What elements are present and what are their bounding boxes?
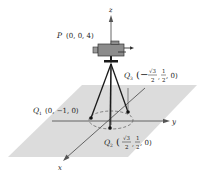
svg-text:(0, 0, 4): (0, 0, 4): [66, 32, 94, 40]
x-axis-label: x: [58, 164, 62, 172]
svg-text:(−: (−: [136, 69, 148, 80]
svg-text:3: 3: [130, 76, 133, 81]
svg-text:(0, −1, 0): (0, −1, 0): [45, 107, 79, 115]
svg-text:, 0): , 0): [140, 139, 152, 147]
point-q3: [126, 110, 130, 114]
point-q2: [108, 126, 112, 130]
svg-text:1: 1: [162, 68, 166, 74]
svg-text:,: ,: [132, 140, 134, 147]
svg-text:2: 2: [162, 77, 166, 83]
svg-text:1: 1: [39, 111, 42, 116]
svg-text:2: 2: [110, 143, 113, 148]
label-q1: Q 1 (0, −1, 0): [33, 106, 79, 116]
tripod-diagram: y x z P (0, 0, 4) Q 1 (0, −1, 0) Q: [0, 0, 203, 174]
z-axis-arrow-icon: [109, 15, 113, 22]
camera-icon: [93, 41, 134, 56]
svg-text:2: 2: [136, 144, 140, 150]
z-axis-label: z: [108, 6, 113, 14]
svg-text:(: (: [116, 136, 120, 147]
svg-text:,: ,: [158, 73, 160, 80]
y-axis-arrow-icon: [163, 119, 170, 123]
svg-text:P: P: [56, 31, 63, 40]
label-p: P (0, 0, 4): [56, 31, 94, 40]
point-q1: [89, 116, 93, 120]
svg-text:1: 1: [136, 135, 140, 141]
y-axis-label: y: [171, 118, 177, 126]
svg-text:2: 2: [151, 77, 155, 83]
label-q3: Q 3 (− √3 2 , 1 2 , 0): [124, 68, 178, 83]
svg-text:√3: √3: [123, 135, 131, 141]
svg-text:2: 2: [125, 144, 129, 150]
svg-text:, 0): , 0): [166, 72, 178, 80]
svg-text:√3: √3: [149, 68, 157, 74]
